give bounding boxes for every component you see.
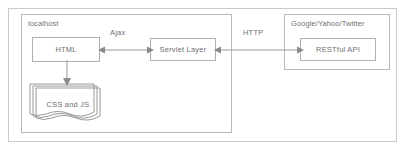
edge-label-ajax: Ajax	[110, 28, 125, 37]
architecture-diagram: localhost Google/Yahoo/Twitter HTML Serv…	[0, 0, 406, 155]
node-html: HTML	[32, 37, 100, 62]
node-html-label: HTML	[55, 45, 76, 54]
node-servlet-layer-label: Servlet Layer	[160, 45, 207, 54]
connector-http	[214, 40, 304, 60]
connector-ajax	[98, 40, 154, 60]
node-css-and-js: CSS and JS	[30, 84, 106, 128]
node-servlet-layer: Servlet Layer	[150, 38, 216, 61]
edge-label-http: HTTP	[243, 28, 263, 37]
node-restful-api-label: RESTful API	[316, 45, 360, 54]
group-external-services-label: Google/Yahoo/Twitter	[291, 19, 365, 28]
multi-document-icon	[30, 84, 106, 128]
group-localhost-label: localhost	[28, 19, 59, 28]
node-restful-api: RESTful API	[300, 38, 376, 61]
connector-html-to-css-js	[56, 60, 78, 86]
